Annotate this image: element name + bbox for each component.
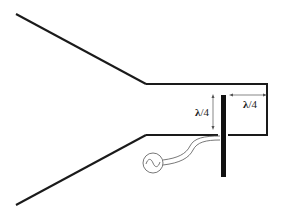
- monopole-probe: [221, 95, 226, 177]
- probe-height-label: λ/4: [195, 106, 209, 118]
- coax-feed: [163, 136, 220, 165]
- ac-source-icon: [143, 153, 163, 173]
- probe-height-dimension: λ/4: [195, 94, 215, 130]
- horn-lower-flare: [16, 135, 146, 205]
- horn-antenna-diagram: λ/4 λ/4: [0, 0, 282, 217]
- horn-upper-flare: [16, 14, 146, 84]
- backshort-distance-dimension: λ/4: [229, 94, 267, 111]
- backshort-distance-label: λ/4: [243, 98, 257, 110]
